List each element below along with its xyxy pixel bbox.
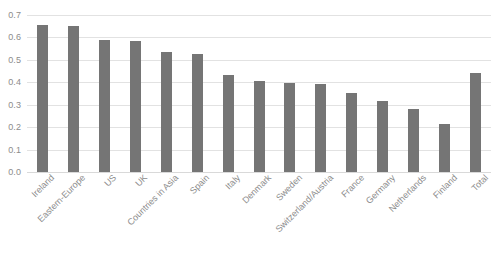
bar xyxy=(408,109,419,172)
bar xyxy=(192,54,203,172)
y-axis: 0.70.60.50.40.30.20.10.0 xyxy=(0,15,24,172)
x-axis-tick-label: UK xyxy=(126,174,142,190)
x-axis-tick-label: US xyxy=(95,174,111,190)
y-axis-tick-label: 0.6 xyxy=(8,32,21,42)
bar xyxy=(315,84,326,172)
x-axis-tick-label-text: Denmark xyxy=(240,173,273,206)
bar xyxy=(254,81,265,173)
x-axis-tick-label: France xyxy=(332,174,359,201)
bar xyxy=(37,25,48,172)
x-axis-tick-label: Ireland xyxy=(23,174,50,201)
bar xyxy=(161,52,172,172)
y-axis-tick-label: 0.2 xyxy=(8,122,21,132)
bar xyxy=(439,124,450,172)
x-axis-tick-label: Italy xyxy=(216,174,235,193)
y-axis-tick-label: 0.5 xyxy=(8,55,21,65)
bar xyxy=(223,75,234,172)
x-axis-tick-label-text: US xyxy=(103,173,119,189)
bar xyxy=(68,26,79,172)
bar xyxy=(346,93,357,172)
x-axis-tick-label-text: Finland xyxy=(431,173,459,201)
x-axis-tick-label-text: Total xyxy=(469,173,490,194)
y-axis-tick-label: 0.3 xyxy=(8,100,21,110)
bar-chart: 0.70.60.50.40.30.20.10.0 IrelandEastern-… xyxy=(0,0,497,253)
x-axis-tick-label: Total xyxy=(462,174,483,195)
plot-area xyxy=(27,15,491,172)
bars xyxy=(27,15,491,172)
y-axis-tick-label: 0.0 xyxy=(8,167,21,177)
x-axis-tick-label: Spain xyxy=(181,174,204,197)
x-axis: IrelandEastern-EuropeUSUKCountries in As… xyxy=(27,174,491,253)
bar xyxy=(377,101,388,172)
bar xyxy=(130,41,141,172)
x-axis-tick-label-text: UK xyxy=(133,173,149,189)
y-axis-tick-label: 0.1 xyxy=(8,145,21,155)
y-axis-tick-label: 0.4 xyxy=(8,77,21,87)
x-axis-tick-label-text: Spain xyxy=(188,173,211,196)
bar xyxy=(99,40,110,172)
x-axis-tick-label-text: Italy xyxy=(223,173,242,192)
bar xyxy=(284,83,295,172)
y-axis-tick-label: 0.7 xyxy=(8,10,21,20)
bar xyxy=(470,73,481,172)
figure-caption xyxy=(34,246,474,253)
